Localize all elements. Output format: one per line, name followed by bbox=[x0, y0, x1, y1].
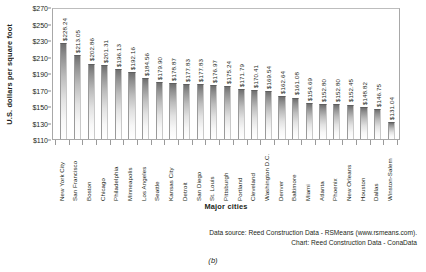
bar-item[interactable]: $213.05 bbox=[71, 10, 85, 139]
bar-item[interactable]: $179.90 bbox=[152, 10, 166, 139]
bar-value-label: $148.82 bbox=[360, 82, 367, 105]
bar-rect[interactable] bbox=[374, 109, 381, 139]
bar-rect[interactable] bbox=[74, 55, 81, 139]
bar-item[interactable]: $162.64 bbox=[275, 10, 289, 139]
bar-value-label: $201.31 bbox=[101, 40, 108, 63]
bar-item[interactable]: $177.83 bbox=[180, 10, 194, 139]
y-axis-tick-label: $230 bbox=[32, 38, 48, 45]
x-axis-category: Philadelphia bbox=[110, 146, 124, 201]
bar-value-label: $171.79 bbox=[238, 64, 245, 87]
bar-rect[interactable] bbox=[128, 72, 135, 139]
bar-value-label: $228.24 bbox=[60, 18, 67, 41]
bar-item[interactable]: $196.13 bbox=[112, 10, 126, 139]
bar-rect[interactable] bbox=[115, 69, 122, 139]
bar-item[interactable]: $177.83 bbox=[193, 10, 207, 139]
bar-value-label: $162.64 bbox=[279, 71, 286, 94]
bar-item[interactable]: $146.75 bbox=[371, 10, 385, 139]
x-axis-category: New Orleans bbox=[342, 146, 356, 201]
bar-rect[interactable] bbox=[278, 96, 285, 139]
x-axis-category: San Diego bbox=[192, 146, 206, 201]
bar-item[interactable]: $154.69 bbox=[303, 10, 317, 139]
x-axis-tick-mark bbox=[110, 140, 111, 145]
x-axis-category: Minneapolis bbox=[123, 146, 137, 201]
bar-value-label: $152.45 bbox=[347, 79, 354, 102]
x-axis-category: Boston bbox=[82, 146, 96, 201]
bar-value-label: $131.04 bbox=[388, 97, 395, 120]
bar-item[interactable]: $171.79 bbox=[234, 10, 248, 139]
bar-rect[interactable] bbox=[292, 98, 299, 140]
bar-value-label: $179.90 bbox=[156, 57, 163, 80]
y-axis-tick-mark bbox=[48, 140, 51, 141]
bar-item[interactable]: $202.86 bbox=[84, 10, 98, 139]
bar-rect[interactable] bbox=[183, 84, 190, 139]
bar-item[interactable]: $178.87 bbox=[166, 10, 180, 139]
x-axis-category-label: Boston bbox=[86, 146, 92, 201]
bar-rect[interactable] bbox=[88, 64, 95, 139]
bar-item[interactable]: $201.31 bbox=[98, 10, 112, 139]
x-axis-category-label: Washington D.C. bbox=[264, 146, 270, 201]
bar-rect[interactable] bbox=[360, 107, 367, 139]
bar-rect[interactable] bbox=[347, 105, 354, 139]
bar-item[interactable]: $176.97 bbox=[207, 10, 221, 139]
figure-caption: (b) bbox=[0, 256, 426, 265]
bar-item[interactable]: $152.80 bbox=[330, 10, 344, 139]
bar-item[interactable]: $184.56 bbox=[139, 10, 153, 139]
bar-rect[interactable] bbox=[101, 65, 108, 139]
x-axis-category-labels: New York CitySan FranciscoBostonChicagoP… bbox=[52, 146, 400, 201]
bar-value-label: $177.83 bbox=[197, 59, 204, 82]
bar-item[interactable]: $175.24 bbox=[221, 10, 235, 139]
bar-item[interactable]: $169.54 bbox=[262, 10, 276, 139]
bar-rect[interactable] bbox=[238, 89, 245, 139]
bar-value-label: $175.24 bbox=[224, 61, 231, 84]
bar-value-label: $178.87 bbox=[169, 58, 176, 81]
bar-rect[interactable] bbox=[306, 103, 313, 139]
x-axis-category-label: St. Louis bbox=[209, 146, 215, 201]
bar-item[interactable]: $170.41 bbox=[248, 10, 262, 139]
x-axis-category: Seattle bbox=[151, 146, 165, 201]
bar-value-label: $176.97 bbox=[210, 60, 217, 83]
x-axis-category-label: San Diego bbox=[196, 146, 202, 201]
bar-rect[interactable] bbox=[169, 83, 176, 139]
x-axis-category: Los Angeles bbox=[137, 146, 151, 201]
x-axis-category: Detroit bbox=[178, 146, 192, 201]
x-axis-tick-mark bbox=[55, 140, 56, 145]
bar-rect[interactable] bbox=[197, 84, 204, 139]
bar-value-label: $152.80 bbox=[319, 79, 326, 102]
bar-item[interactable]: $152.80 bbox=[316, 10, 330, 139]
x-axis-tick-mark bbox=[260, 140, 261, 145]
bar-rect[interactable] bbox=[251, 90, 258, 139]
x-axis-tick-mark bbox=[151, 140, 152, 145]
bar-rect[interactable] bbox=[156, 82, 163, 139]
bar-value-label: $213.05 bbox=[74, 30, 81, 53]
y-axis-tick-mark bbox=[48, 90, 51, 91]
x-axis-category: Portland bbox=[233, 146, 247, 201]
x-axis-tick-mark bbox=[274, 140, 275, 145]
x-axis-category-label: Portland bbox=[237, 146, 243, 201]
y-axis-tick-mark bbox=[48, 8, 51, 9]
x-axis-tick-mark bbox=[96, 140, 97, 145]
x-axis-tick-mark bbox=[383, 140, 384, 145]
bar-item[interactable]: $228.24 bbox=[57, 10, 71, 139]
bar-rect[interactable] bbox=[224, 86, 231, 139]
bar-value-label: $192.16 bbox=[129, 47, 136, 70]
x-axis-category: St. Louis bbox=[205, 146, 219, 201]
bar-series: $228.24$213.05$202.86$201.31$196.13$192.… bbox=[54, 10, 398, 139]
bar-rect[interactable] bbox=[142, 78, 149, 139]
bar-rect[interactable] bbox=[388, 122, 395, 139]
x-axis-category-label: Los Angeles bbox=[141, 146, 147, 201]
bar-rect[interactable] bbox=[60, 43, 67, 139]
bar-rect[interactable] bbox=[265, 91, 272, 139]
bar-item[interactable]: $192.16 bbox=[125, 10, 139, 139]
bar-item[interactable]: $161.08 bbox=[289, 10, 303, 139]
bar-rect[interactable] bbox=[210, 85, 217, 139]
bar-rect[interactable] bbox=[333, 104, 340, 139]
bar-item[interactable]: $152.45 bbox=[343, 10, 357, 139]
bar-item[interactable]: $148.82 bbox=[357, 10, 371, 139]
y-axis-tick-mark bbox=[48, 74, 51, 75]
x-axis-tick-mark bbox=[192, 140, 193, 145]
bar-rect[interactable] bbox=[319, 104, 326, 139]
source-note-line-1: Data source: Reed Construction Data - RS… bbox=[117, 228, 417, 238]
bar-item[interactable]: $131.04 bbox=[384, 10, 398, 139]
x-axis-category-label: Baltimore bbox=[291, 146, 297, 201]
y-axis-tick-label: $190 bbox=[32, 71, 48, 78]
